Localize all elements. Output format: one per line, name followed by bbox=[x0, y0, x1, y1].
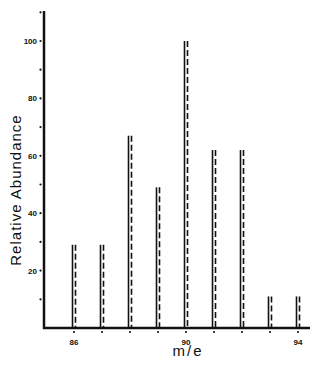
x-tick-mark bbox=[101, 331, 103, 333]
x-tick-label: 86 bbox=[70, 338, 79, 347]
bar bbox=[185, 41, 188, 328]
x-tick-mark bbox=[157, 331, 159, 333]
bar bbox=[297, 296, 300, 328]
y-tick-mark bbox=[39, 97, 41, 99]
bar bbox=[213, 150, 216, 328]
y-tick-label: 40 bbox=[28, 209, 37, 218]
bar bbox=[269, 296, 272, 328]
y-tick-label: 60 bbox=[28, 152, 37, 161]
bar bbox=[101, 245, 104, 328]
bar bbox=[157, 187, 160, 328]
x-tick-mark bbox=[269, 331, 271, 333]
x-axis-label: m/e bbox=[172, 342, 203, 359]
y-minor-tick-mark bbox=[39, 241, 41, 243]
y-minor-tick-mark bbox=[39, 69, 41, 71]
y-minor-tick-mark bbox=[39, 183, 41, 185]
x-tick-mark bbox=[213, 331, 215, 333]
y-axis-label: Relative Abundance bbox=[7, 114, 24, 265]
x-tick-mark bbox=[297, 331, 299, 333]
y-tick-label: 20 bbox=[28, 267, 37, 276]
bar bbox=[129, 136, 132, 328]
x-tick-mark bbox=[73, 331, 75, 333]
y-minor-tick-mark bbox=[39, 298, 41, 300]
y-tick-label: 100 bbox=[24, 37, 38, 46]
y-tick-mark bbox=[39, 40, 41, 42]
axes bbox=[43, 11, 310, 329]
bar bbox=[241, 150, 244, 328]
bar bbox=[73, 245, 76, 328]
x-tick-label: 94 bbox=[294, 338, 303, 347]
y-tick-mark bbox=[39, 270, 41, 272]
y-minor-tick-mark bbox=[39, 11, 41, 13]
x-tick-mark bbox=[241, 331, 243, 333]
y-minor-tick-mark bbox=[39, 126, 41, 128]
bars bbox=[73, 41, 300, 328]
x-tick-mark bbox=[129, 331, 131, 333]
mass-spectrum-chart: 20406080100 869094 Relative Abundance m/… bbox=[0, 0, 316, 368]
y-tick-mark bbox=[39, 155, 41, 157]
y-axis-ticks: 20406080100 bbox=[24, 11, 42, 300]
y-tick-label: 80 bbox=[28, 94, 37, 103]
y-tick-mark bbox=[39, 212, 41, 214]
x-tick-mark bbox=[185, 331, 187, 333]
